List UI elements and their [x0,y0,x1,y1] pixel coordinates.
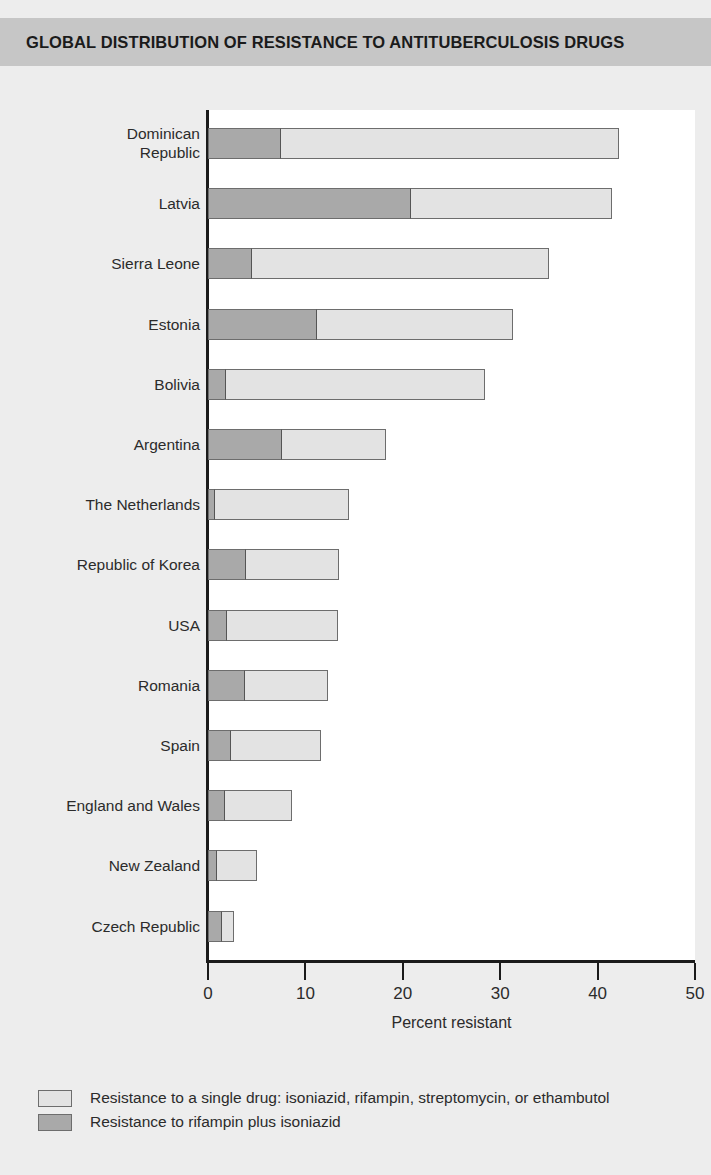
bar-segment-single-drug [217,850,257,881]
bar-row: Estonia [0,309,711,340]
bar-row: Spain [0,730,711,761]
stacked-bar [208,610,338,641]
bar-segment-rifampin-plus-isoniazid [208,429,282,460]
x-axis-tick [207,963,209,980]
legend-swatch-rifampin-isoniazid-icon [38,1114,72,1131]
bar-segment-rifampin-plus-isoniazid [208,730,231,761]
legend-swatch-single-drug-icon [38,1090,72,1107]
bar-segment-rifampin-plus-isoniazid [208,549,246,580]
bar-row: Latvia [0,188,711,219]
bar-row: Argentina [0,429,711,460]
x-axis-tick [499,963,501,980]
stacked-bar [208,549,339,580]
stacked-bar [208,369,485,400]
bar-segment-single-drug [215,489,349,520]
legend-label-rifampin-plus-isoniazid: Resistance to rifampin plus isoniazid [90,1113,341,1131]
bar-row: Republic of Korea [0,549,711,580]
bar-category-label: Latvia [8,194,200,213]
bar-category-label: Czech Republic [8,917,200,936]
bar-category-label: Spain [8,736,200,755]
bar-segment-single-drug [281,128,619,159]
bar-category-label: England and Wales [8,796,200,815]
bar-segment-rifampin-plus-isoniazid [208,188,411,219]
stacked-bar [208,850,257,881]
bar-segment-rifampin-plus-isoniazid [208,790,225,821]
bar-category-label: DominicanRepublic [8,124,200,162]
bar-category-label: Estonia [8,315,200,334]
bar-segment-single-drug [246,549,339,580]
bar-segment-rifampin-plus-isoniazid [208,670,245,701]
x-axis-tick-label: 50 [686,984,705,1004]
bar-row: The Netherlands [0,489,711,520]
x-axis-tick [402,963,404,980]
bar-segment-rifampin-plus-isoniazid [208,911,222,942]
stacked-bar [208,188,612,219]
stacked-bar [208,489,349,520]
x-axis-tick-label: 20 [393,984,412,1004]
bar-segment-rifampin-plus-isoniazid [208,489,215,520]
bar-segment-rifampin-plus-isoniazid [208,248,252,279]
x-axis-tick [597,963,599,980]
bar-segment-single-drug [227,610,338,641]
x-axis-tick-label: 30 [491,984,510,1004]
bar-row: Bolivia [0,369,711,400]
bar-row: New Zealand [0,850,711,881]
bar-segment-single-drug [245,670,328,701]
bar-category-label: Sierra Leone [8,254,200,273]
bar-segment-rifampin-plus-isoniazid [208,610,227,641]
bar-segment-single-drug [225,790,292,821]
legend-item-rifampin-plus-isoniazid: Resistance to rifampin plus isoniazid [38,1110,698,1134]
bar-category-label: Argentina [8,435,200,454]
x-axis-tick-label: 0 [203,984,212,1004]
bar-segment-single-drug [231,730,321,761]
stacked-bar [208,309,513,340]
bar-row: USA [0,610,711,641]
bar-segment-single-drug [282,429,386,460]
bar-row: DominicanRepublic [0,128,711,159]
x-axis-tick-label: 10 [296,984,315,1004]
stacked-bar [208,670,328,701]
bar-segment-single-drug [226,369,485,400]
x-axis-tick-label: 40 [588,984,607,1004]
bar-category-label: Romania [8,676,200,695]
stacked-bar [208,429,386,460]
x-axis-label: Percent resistant [208,1014,695,1032]
bar-segment-single-drug [317,309,513,340]
stacked-bar [208,790,292,821]
figure-root: GLOBAL DISTRIBUTION OF RESISTANCE TO ANT… [0,0,711,1175]
bar-segment-single-drug [252,248,549,279]
bar-row: Romania [0,670,711,701]
bar-segment-single-drug [411,188,613,219]
x-axis-tick [694,963,696,980]
bar-segment-rifampin-plus-isoniazid [208,850,217,881]
bar-row: Czech Republic [0,911,711,942]
stacked-bar [208,911,234,942]
stacked-bar [208,730,321,761]
bar-row: England and Wales [0,790,711,821]
bar-row: Sierra Leone [0,248,711,279]
chart-legend: Resistance to a single drug: isoniazid, … [38,1086,698,1134]
x-axis-tick [304,963,306,980]
legend-item-single-drug: Resistance to a single drug: isoniazid, … [38,1086,698,1110]
bar-category-label: The Netherlands [8,495,200,514]
bar-segment-rifampin-plus-isoniazid [208,309,317,340]
stacked-bar [208,128,619,159]
bar-segment-rifampin-plus-isoniazid [208,128,281,159]
bar-segment-single-drug [222,911,235,942]
bar-category-label: USA [8,616,200,635]
bar-category-label: Republic of Korea [8,555,200,574]
bar-segment-rifampin-plus-isoniazid [208,369,226,400]
bar-category-label: Bolivia [8,375,200,394]
legend-label-single-drug: Resistance to a single drug: isoniazid, … [90,1089,610,1107]
bar-category-label: New Zealand [8,856,200,875]
stacked-bar [208,248,549,279]
